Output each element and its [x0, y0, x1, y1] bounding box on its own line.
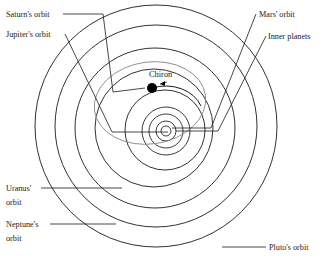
label-uranus-orbit-line1: Uranus': [6, 184, 32, 193]
leader-saturn-tail: [113, 88, 145, 92]
solar-system-svg: Saturn's orbit Jupiter's orbit Mars' orb…: [0, 0, 324, 269]
label-jupiter-orbit: Jupiter's orbit: [6, 30, 51, 39]
label-uranus-orbit-line2: orbit: [6, 198, 22, 207]
orbit-pluto: [35, 5, 277, 247]
chiron-dot: [147, 83, 157, 93]
label-mars-orbit: Mars' orbit: [259, 10, 296, 19]
label-neptune-orbit-line1: Neptune's: [6, 220, 38, 229]
leader-jupiter: [65, 34, 112, 132]
label-saturn-orbit: Saturn's orbit: [6, 10, 50, 19]
label-pluto-orbit: Pluto's orbit: [269, 243, 309, 252]
label-inner-planets: Inner planets: [268, 32, 311, 41]
orbit-inner-planet-1: [156, 121, 176, 141]
orbit-circles: [35, 5, 277, 247]
leader-mars: [172, 14, 256, 128]
orbit-jupiter: [125, 90, 205, 170]
diagram-labels: Saturn's orbit Jupiter's orbit Mars' orb…: [6, 10, 311, 252]
orbit-neptune: [55, 25, 257, 227]
chiron-orbit-arc: [152, 86, 201, 106]
orbit-diagram: Saturn's orbit Jupiter's orbit Mars' orb…: [0, 0, 324, 269]
sun-circle: [161, 126, 171, 136]
label-neptune-orbit-line2: orbit: [6, 234, 22, 243]
label-chiron: Chiron: [149, 70, 173, 79]
